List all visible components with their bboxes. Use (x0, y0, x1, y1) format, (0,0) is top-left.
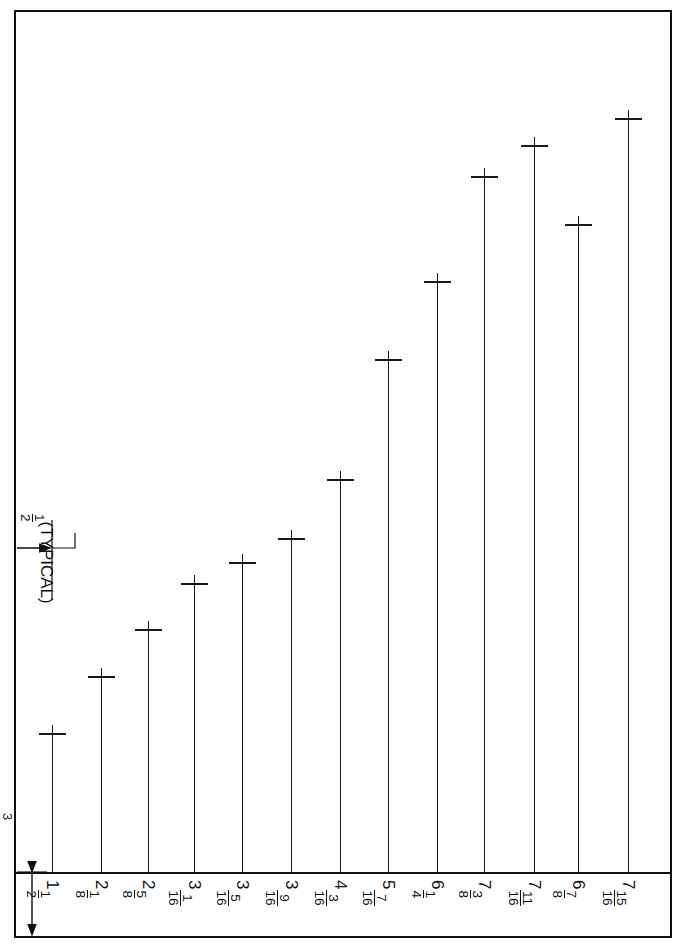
drawing-sheet: 1122182583116351639164316571661473871116… (0, 0, 689, 951)
dimension-overlay (0, 0, 689, 951)
dimension-arrow-typical (17, 520, 75, 600)
dimension-arrow-three-quarters (17, 872, 47, 935)
